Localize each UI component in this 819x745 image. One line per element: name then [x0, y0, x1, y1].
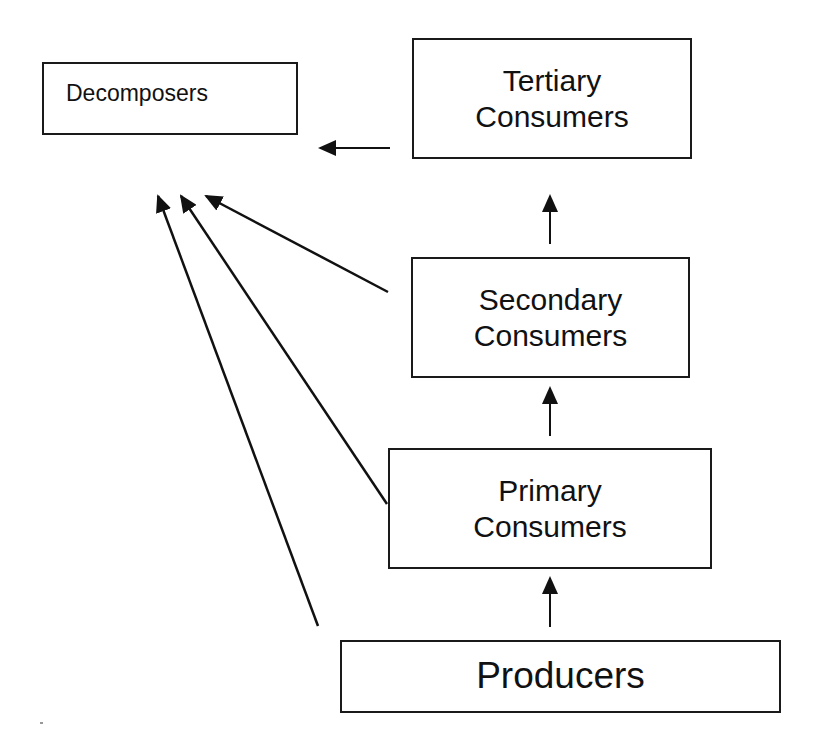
node-label-line2: Consumers [474, 318, 627, 354]
node-producers: Producers [340, 640, 781, 713]
node-label: Producers [476, 654, 645, 698]
node-label-line1: Secondary [479, 282, 622, 318]
node-label-line2: Consumers [473, 509, 626, 545]
arrow-producers-to-decomposers [158, 196, 318, 626]
node-primary-consumers: Primary Consumers [388, 448, 712, 569]
node-secondary-consumers: Secondary Consumers [411, 257, 690, 378]
arrow-secondary-to-decomposers [206, 196, 388, 292]
node-label-line2: Consumers [475, 99, 628, 135]
arrow-primary-to-decomposers [181, 196, 387, 504]
node-tertiary-consumers: Tertiary Consumers [412, 38, 692, 159]
node-decomposers: Decomposers [42, 62, 298, 135]
node-label-line1: Tertiary [503, 63, 601, 99]
node-label-line1: Primary [498, 473, 601, 509]
node-label: Decomposers [66, 80, 208, 108]
scan-artifact [40, 722, 43, 724]
